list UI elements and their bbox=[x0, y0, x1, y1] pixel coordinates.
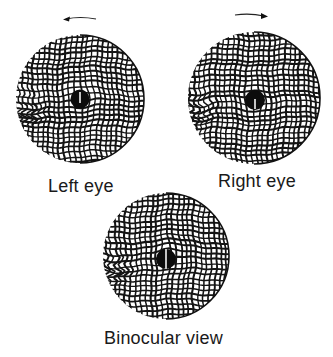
grid-line-vertical bbox=[214, 186, 218, 327]
grid-line-horizontal bbox=[180, 158, 327, 162]
grid-line-vertical bbox=[219, 186, 223, 327]
fixation-dot-right bbox=[245, 90, 265, 110]
caption-binocular-view: Binocular view bbox=[104, 329, 223, 347]
caption-right-eye: Right eye bbox=[218, 172, 296, 190]
grid-line-vertical bbox=[147, 28, 151, 172]
grid-line-vertical bbox=[188, 24, 194, 171]
grid-line-vertical bbox=[234, 185, 238, 326]
grid-line-horizontal bbox=[8, 25, 152, 29]
grid-line-vertical bbox=[208, 186, 212, 327]
curved-arrow-left-icon bbox=[63, 17, 96, 22]
fixation-dot-binocular bbox=[156, 249, 176, 269]
grid-line-vertical bbox=[94, 183, 99, 324]
grid-line-vertical bbox=[323, 25, 327, 172]
grid-line-horizontal bbox=[97, 323, 238, 327]
grid-line-vertical bbox=[32, 27, 37, 171]
grid-line-horizontal bbox=[95, 314, 236, 318]
grid-line-horizontal bbox=[180, 162, 327, 166]
grid-line-horizontal bbox=[97, 183, 238, 187]
grid-line-vertical bbox=[131, 29, 135, 173]
grid-line-horizontal bbox=[8, 46, 152, 50]
grid-line-vertical bbox=[184, 25, 189, 172]
grid-line-vertical bbox=[136, 28, 140, 172]
grid-line-horizontal bbox=[95, 209, 236, 213]
grid-line-vertical bbox=[223, 187, 227, 328]
grid-line-horizontal bbox=[8, 166, 152, 170]
grid-line-horizontal bbox=[6, 144, 150, 148]
grid-line-horizontal bbox=[180, 22, 327, 26]
caption-left-eye: Left eye bbox=[48, 177, 114, 195]
grid-line-horizontal bbox=[180, 27, 327, 31]
grid-line-horizontal bbox=[9, 30, 153, 34]
grid-line-horizontal bbox=[97, 189, 238, 193]
grid-line-vertical bbox=[98, 183, 103, 324]
fixation-dot-left bbox=[71, 90, 90, 109]
grid-line-vertical bbox=[178, 26, 182, 173]
grid-line-vertical bbox=[11, 26, 16, 170]
grid-line-horizontal bbox=[95, 308, 236, 312]
grid-line-horizontal bbox=[95, 303, 236, 307]
grid-line-vertical bbox=[7, 26, 11, 170]
grid-line-horizontal bbox=[181, 33, 328, 37]
grid-line-horizontal bbox=[96, 194, 237, 198]
grid-line-horizontal bbox=[96, 198, 237, 202]
grid-line-horizontal bbox=[96, 204, 237, 208]
grid-line-horizontal bbox=[8, 51, 152, 55]
curved-arrow-right-icon bbox=[235, 13, 268, 19]
